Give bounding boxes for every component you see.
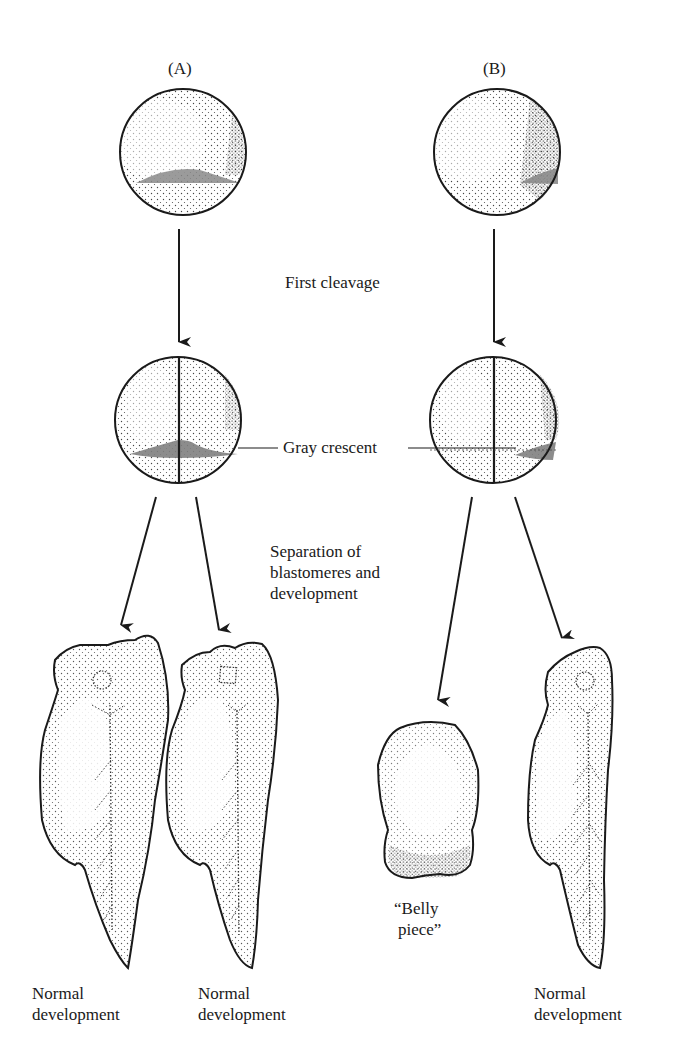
belly-piece-label-line2: piece” <box>394 919 441 940</box>
separation-label-line2: blastomeres and <box>270 562 380 583</box>
separation-label-line1: Separation of <box>270 541 380 562</box>
outcome-line1: Normal <box>198 983 286 1004</box>
outcome-label-b-right: Normal development <box>534 983 622 1025</box>
embryo-b-right <box>528 647 613 968</box>
outcome-line2: development <box>534 1004 622 1025</box>
diagram-canvas <box>0 0 680 1059</box>
embryo-a-right <box>166 643 278 968</box>
belly-piece-label: “Belly piece” <box>394 898 441 940</box>
arrow-a-left <box>121 497 156 625</box>
egg-b-two-cell <box>430 357 559 483</box>
outcome-line1: Normal <box>32 983 120 1004</box>
egg-a-two-cell <box>115 357 242 483</box>
first-cleavage-label: First cleavage <box>285 272 380 293</box>
belly-piece-label-line1: “Belly <box>394 898 441 919</box>
separation-label: Separation of blastomeres and developmen… <box>270 541 380 604</box>
outcome-label-a-right: Normal development <box>198 983 286 1025</box>
embryo-a-left <box>40 636 168 968</box>
egg-a-uncleaved <box>115 89 246 215</box>
gray-crescent-label: Gray crescent <box>281 437 379 458</box>
outcome-line1: Normal <box>534 983 622 1004</box>
column-b-label: (B) <box>483 58 506 79</box>
outcome-line2: development <box>198 1004 286 1025</box>
arrow-b-left <box>438 497 472 700</box>
outcome-line2: development <box>32 1004 120 1025</box>
separation-label-line3: development <box>270 583 380 604</box>
belly-piece <box>378 722 478 878</box>
column-a-label: (A) <box>168 58 192 79</box>
egg-b-uncleaved <box>430 89 560 215</box>
arrow-a-right <box>196 497 219 630</box>
arrow-b-right <box>515 497 562 638</box>
outcome-label-a-left: Normal development <box>32 983 120 1025</box>
